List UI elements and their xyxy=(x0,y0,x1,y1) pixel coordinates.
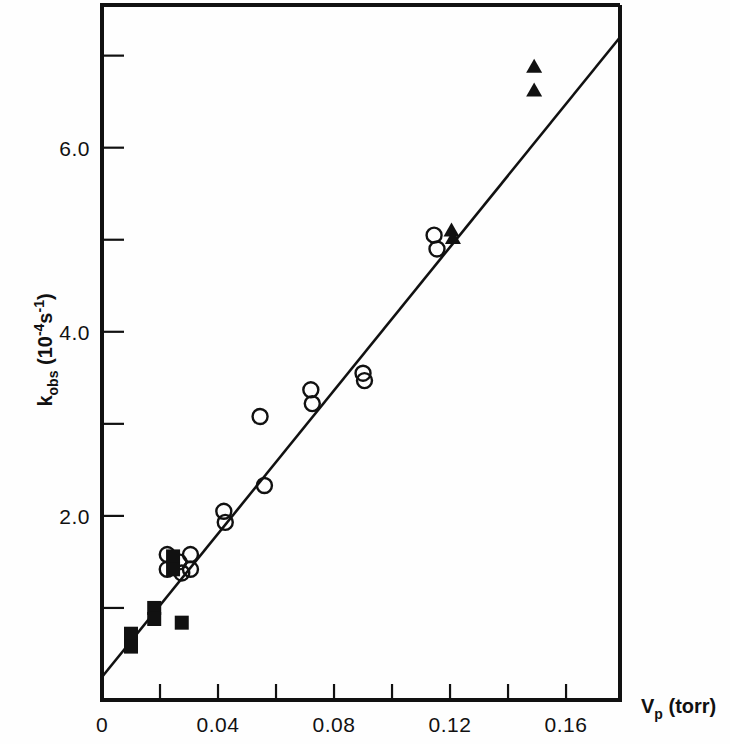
x-axis-title-subscript: p xyxy=(654,706,663,722)
y-axis-unit-exponent-2: -1 xyxy=(31,300,47,313)
x-tick-label: 0.16 xyxy=(545,713,588,736)
data-markers xyxy=(124,59,542,654)
x-axis-title: Vp (torr) xyxy=(641,695,716,722)
data-point-filled-square xyxy=(175,616,189,630)
x-axis-tick-labels: 00.040.080.120.16 xyxy=(96,713,588,736)
data-point-open-circle xyxy=(429,241,444,256)
axis-ticks xyxy=(102,56,566,700)
data-point-filled-square xyxy=(166,562,180,576)
x-axis-title-main: V xyxy=(641,695,655,717)
x-axis-title-unit: (torr) xyxy=(668,695,716,717)
data-point-open-circle xyxy=(253,409,268,424)
y-tick-label: 2.0 xyxy=(59,505,90,528)
y-axis-unit-exponent-1: -4 xyxy=(31,323,47,336)
data-point-open-circle xyxy=(218,515,233,530)
y-axis-tick-labels: 2.04.06.0 xyxy=(59,137,90,528)
data-point-open-circle xyxy=(183,547,198,562)
data-point-open-circle xyxy=(427,228,442,243)
figure-canvas: 00.040.080.120.16 2.04.06.0 Vp (torr) ko… xyxy=(0,0,730,744)
y-tick-label: 6.0 xyxy=(59,137,90,160)
data-point-open-circle xyxy=(257,478,272,493)
plot-frame xyxy=(102,5,620,700)
y-axis-unit-seconds: s xyxy=(34,313,56,324)
y-tick-label: 4.0 xyxy=(59,321,90,344)
x-tick-label: 0.08 xyxy=(313,713,356,736)
y-axis-unit-close: ) xyxy=(34,293,56,300)
x-tick-label: 0 xyxy=(96,713,108,736)
scatter-plot: 00.040.080.120.16 2.04.06.0 Vp (torr) ko… xyxy=(0,0,730,744)
x-tick-label: 0.12 xyxy=(429,713,472,736)
x-tick-label: 0.04 xyxy=(197,713,240,736)
data-point-filled-square xyxy=(166,549,180,563)
data-point-filled-square xyxy=(124,640,138,654)
data-point-filled-triangle xyxy=(526,59,542,73)
data-point-filled-triangle xyxy=(526,83,542,97)
y-axis-title-subscript: obs xyxy=(45,370,61,395)
data-point-filled-square xyxy=(124,627,138,641)
svg-text:kobs (10-4s-1): kobs (10-4s-1) xyxy=(31,293,61,406)
y-axis-unit-open: (10 xyxy=(34,336,56,365)
data-point-filled-square xyxy=(147,612,161,626)
svg-text:Vp (torr): Vp (torr) xyxy=(641,695,716,722)
y-axis-title: kobs (10-4s-1) xyxy=(31,293,61,406)
